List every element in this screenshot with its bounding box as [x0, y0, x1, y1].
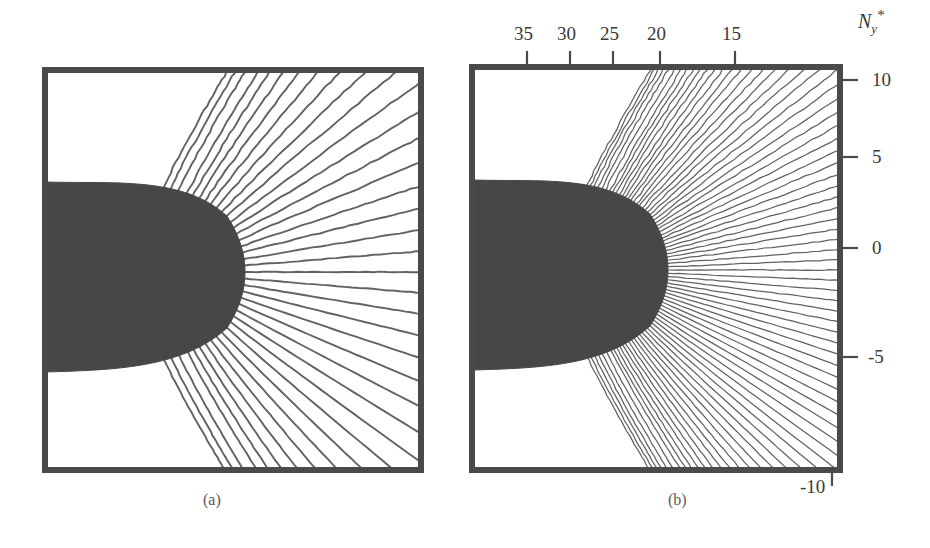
right-tick-label-0: 0: [872, 238, 882, 257]
figure-canvas: [0, 0, 930, 548]
right-tick-label-10: 10: [872, 70, 891, 89]
top-tick-label-25: 25: [600, 24, 619, 43]
top-tick-label-15: 15: [722, 24, 741, 43]
right-tick-label-minus10: -10: [800, 477, 825, 496]
top-tick-label-20: 20: [647, 24, 666, 43]
top-tick-label-30: 30: [557, 24, 576, 43]
panel-b-caption: (b): [668, 492, 687, 508]
right-tick-label-minus5: -5: [868, 347, 884, 366]
vertical-axis-title: Ny*: [858, 8, 885, 35]
top-tick-label-35: 35: [514, 24, 533, 43]
right-tick-label-5: 5: [872, 147, 882, 166]
panel-b: [472, 67, 840, 470]
panel-a-caption: (a): [203, 492, 221, 508]
panel-a: [45, 70, 421, 470]
